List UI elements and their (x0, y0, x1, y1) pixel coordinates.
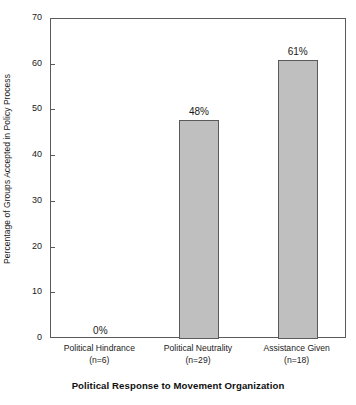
bar (179, 120, 219, 339)
y-axis-tick-mark (50, 109, 55, 110)
y-axis-tick-label: 70 (6, 13, 42, 22)
x-axis-title: Political Response to Movement Organizat… (0, 380, 356, 391)
category-name: Assistance Given (263, 343, 329, 353)
bar (278, 60, 318, 339)
y-axis-tick-label: 10 (6, 287, 42, 296)
category-name: Political Hindrance (64, 343, 135, 353)
y-axis-tick-mark (50, 155, 55, 156)
x-axis-category-label: Assistance Given(n=18) (237, 342, 356, 366)
y-axis-tick-mark (50, 292, 55, 293)
y-axis-tick-label: 40 (6, 150, 42, 159)
category-name: Political Neutrality (164, 343, 232, 353)
y-axis-tick-label: 50 (6, 104, 42, 113)
y-axis-tick-mark (50, 247, 55, 248)
bar-value-label: 61% (268, 46, 328, 57)
bar-value-label: 0% (70, 325, 130, 336)
category-sample-size: (n=18) (237, 354, 356, 366)
y-axis-tick-label: 30 (6, 196, 42, 205)
y-axis-tick-mark (50, 201, 55, 202)
bar-chart-figure: Percentage of Groups Accepted in Policy … (0, 0, 356, 405)
y-axis-tick-label: 20 (6, 242, 42, 251)
plot-area: 0%48%61% (50, 18, 346, 338)
bar-value-label: 48% (169, 106, 229, 117)
y-axis-tick-label: 0 (6, 333, 42, 342)
y-axis-tick-mark (50, 64, 55, 65)
y-axis-tick-label: 60 (6, 59, 42, 68)
